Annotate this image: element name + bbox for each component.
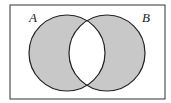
venn-diagram: A B	[0, 0, 171, 103]
set-a-label: A	[28, 10, 37, 25]
set-b-label: B	[142, 10, 150, 25]
